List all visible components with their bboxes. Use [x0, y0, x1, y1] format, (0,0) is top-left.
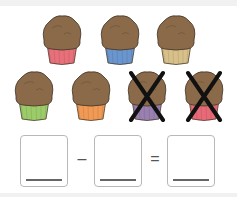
muffin-icon: [98, 14, 142, 66]
muffin-crossed-out: [182, 70, 226, 122]
muffin: [154, 14, 198, 66]
answer-box-minuend[interactable]: [20, 135, 68, 187]
bottom-border: [0, 193, 237, 197]
muffin-icon: [154, 14, 198, 66]
muffin-icon: [182, 70, 226, 122]
answer-line: [100, 179, 136, 181]
equals-sign: =: [148, 150, 162, 168]
muffin-icon: [40, 14, 84, 66]
muffin: [12, 70, 56, 122]
muffin-icon: [12, 70, 56, 122]
muffin: [40, 14, 84, 66]
minus-sign: –: [75, 150, 89, 168]
muffin: [98, 14, 142, 66]
answer-line: [26, 179, 62, 181]
answer-box-difference[interactable]: [167, 135, 215, 187]
top-border: [0, 0, 237, 6]
answer-box-subtrahend[interactable]: [94, 135, 142, 187]
muffin-icon: [125, 70, 169, 122]
muffin-crossed-out: [125, 70, 169, 122]
muffin: [69, 70, 113, 122]
muffin-icon: [69, 70, 113, 122]
answer-line: [173, 179, 209, 181]
